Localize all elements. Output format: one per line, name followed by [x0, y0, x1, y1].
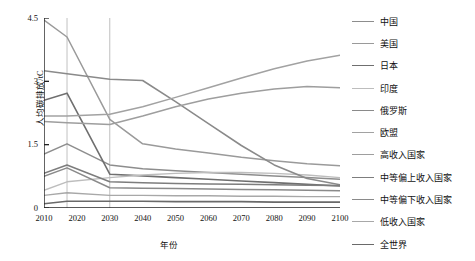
legend-item-7[interactable]: 中等偏上收入国家 [352, 166, 474, 188]
x-tick-label-2040: 2040 [125, 213, 161, 223]
legend-swatch-icon-5 [352, 132, 374, 133]
legend-label-3: 印度 [380, 82, 398, 95]
legend-label-4: 俄罗斯 [380, 104, 407, 117]
x-tick-label-2060: 2060 [190, 213, 226, 223]
x-tick-label-2020: 2020 [59, 213, 95, 223]
legend-swatch-icon-4 [352, 110, 374, 111]
legend-label-1: 美国 [380, 37, 398, 50]
legend-item-6[interactable]: 高收入国家 [352, 144, 474, 166]
legend-swatch-icon-1 [352, 43, 374, 44]
x-tick-label-2070: 2070 [223, 213, 259, 223]
legend-swatch-icon-8 [352, 199, 374, 200]
series-lines [44, 20, 340, 204]
y-tick-label-0: 0 [12, 203, 38, 213]
legend-swatch-icon-3 [352, 88, 374, 89]
series-line-7 [44, 165, 340, 186]
legend-label-10: 全世界 [380, 238, 407, 251]
x-tick-label-2010: 2010 [26, 213, 62, 223]
series-line-9 [44, 193, 340, 197]
legend-swatch-icon-6 [352, 154, 374, 155]
legend-item-5[interactable]: 欧盟 [352, 121, 474, 143]
legend-item-10[interactable]: 全世界 [352, 233, 474, 255]
x-tick-label-2080: 2080 [256, 213, 292, 223]
legend-item-1[interactable]: 美国 [352, 32, 474, 54]
legend-item-9[interactable]: 低收入国家 [352, 211, 474, 233]
legend: 中国美国日本印度俄罗斯欧盟高收入国家中等偏上收入国家中等偏下收入国家低收入国家全… [352, 10, 474, 255]
x-tick-label-2050: 2050 [158, 213, 194, 223]
legend-label-2: 日本 [380, 59, 398, 72]
legend-label-8: 中等偏下收入国家 [380, 193, 452, 206]
legend-label-0: 中国 [380, 15, 398, 28]
legend-item-2[interactable]: 日本 [352, 55, 474, 77]
x-axis-label: 年份 [160, 238, 178, 250]
legend-swatch-icon-2 [352, 65, 374, 66]
legend-swatch-icon-7 [352, 177, 374, 178]
series-line-5 [44, 55, 340, 116]
x-tick-label-2030: 2030 [92, 213, 128, 223]
legend-label-9: 低收入国家 [380, 215, 425, 228]
y-tick-marks [44, 18, 49, 208]
series-line-10 [44, 201, 340, 204]
legend-label-5: 欧盟 [380, 126, 398, 139]
legend-swatch-icon-10 [352, 244, 374, 245]
line-chart-svg [44, 18, 340, 208]
y-tick-label-3: 3 [12, 76, 38, 86]
legend-item-4[interactable]: 俄罗斯 [352, 99, 474, 121]
plot-area [44, 18, 340, 208]
legend-item-0[interactable]: 中国 [352, 10, 474, 32]
legend-label-7: 中等偏上收入国家 [380, 171, 452, 184]
legend-swatch-icon-9 [352, 221, 374, 222]
y-tick-label-1.5: 1.5 [12, 139, 38, 149]
y-tick-label-4.5: 4.5 [12, 13, 38, 23]
legend-swatch-icon-0 [352, 21, 374, 22]
legend-item-8[interactable]: 中等偏下收入国家 [352, 188, 474, 210]
legend-item-3[interactable]: 印度 [352, 77, 474, 99]
series-line-3 [44, 173, 340, 191]
x-tick-label-2090: 2090 [289, 213, 325, 223]
chart-figure: 人均碳排放/tC 年份 01.534.5 2010202020302040205… [0, 0, 475, 261]
legend-label-6: 高收入国家 [380, 148, 425, 161]
